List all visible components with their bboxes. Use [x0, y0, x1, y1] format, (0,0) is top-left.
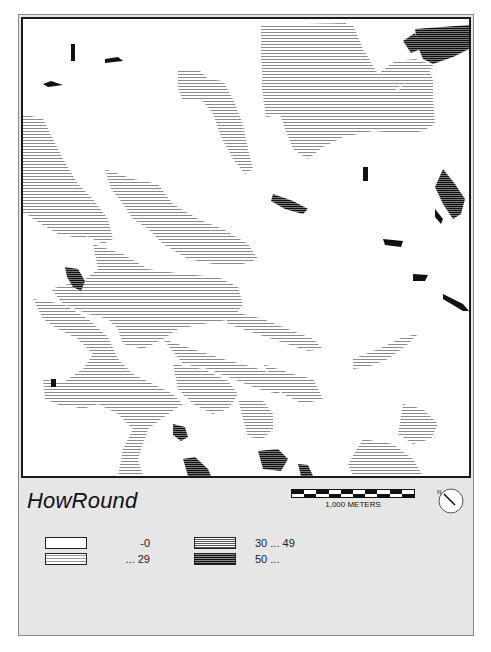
legend-swatch-3	[194, 553, 236, 565]
legend-swatch-0	[45, 537, 87, 549]
region-high	[271, 194, 308, 214]
north-arrow-icon: N	[436, 486, 464, 514]
region-low	[178, 69, 253, 174]
legend-swatch-2	[194, 537, 236, 549]
legend-label-0: -0	[140, 537, 150, 549]
map-regions	[23, 19, 469, 476]
region-high	[443, 294, 469, 311]
region-high	[43, 81, 63, 87]
legend-label-1: ... 29	[120, 553, 150, 565]
region-low	[105, 169, 258, 264]
svg-text:N: N	[437, 489, 441, 495]
region-high	[51, 379, 56, 387]
map-canvas[interactable]	[21, 17, 471, 478]
region-high	[413, 274, 428, 281]
map-title: HowRound	[27, 488, 137, 514]
legend-swatch-1	[45, 553, 87, 565]
region-low	[223, 309, 323, 351]
region-low	[348, 439, 423, 476]
region-high	[258, 449, 288, 471]
region-high	[383, 239, 403, 247]
scale-bar	[291, 489, 415, 498]
legend-label-2: 30 ... 49	[255, 537, 295, 549]
region-low	[353, 334, 418, 369]
region-high	[298, 464, 313, 476]
region-high	[105, 57, 123, 63]
scale-label: 1,000 METERS	[291, 500, 415, 509]
region-high	[363, 167, 368, 181]
region-high	[183, 457, 211, 476]
region-high	[435, 209, 443, 224]
region-high	[415, 25, 469, 64]
region-high	[435, 169, 465, 219]
region-low	[398, 404, 438, 444]
region-high	[71, 44, 75, 61]
region-low	[238, 399, 273, 439]
region-high	[173, 424, 188, 441]
legend-label-3: 50 ...	[255, 553, 279, 565]
